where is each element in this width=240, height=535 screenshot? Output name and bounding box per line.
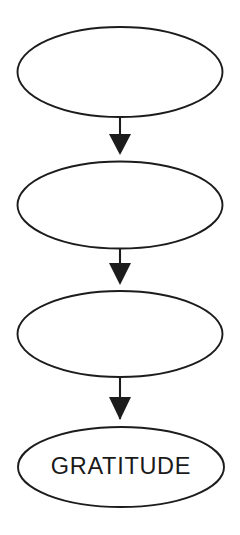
- flowchart-canvas: GRATITUDE: [0, 0, 240, 535]
- arrow-3-head-icon: [109, 397, 131, 420]
- node-2-ellipse[interactable]: [18, 162, 223, 249]
- node-4-label: GRATITUDE: [51, 453, 191, 479]
- flow-arrow-1: [109, 117, 131, 155]
- flow-node-4[interactable]: GRATITUDE: [18, 427, 224, 507]
- flow-arrow-2: [109, 248, 131, 285]
- arrow-2-head-icon: [109, 263, 131, 285]
- arrow-1-head-icon: [109, 134, 131, 155]
- node-1-ellipse[interactable]: [18, 27, 223, 117]
- node-3-ellipse[interactable]: [18, 291, 223, 377]
- flowchart-svg: GRATITUDE: [0, 0, 240, 535]
- flow-node-2[interactable]: [18, 162, 223, 249]
- flow-arrow-3: [109, 377, 131, 420]
- flow-node-1[interactable]: [18, 27, 223, 117]
- flow-node-3[interactable]: [18, 291, 223, 377]
